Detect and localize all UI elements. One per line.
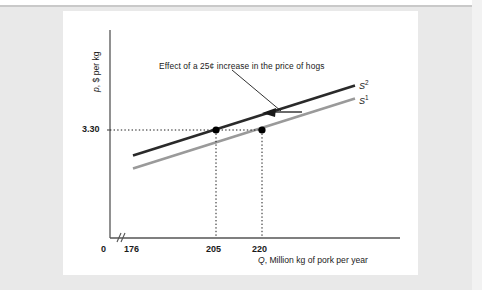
supply-curve-s1	[133, 99, 355, 169]
data-point-205	[212, 126, 219, 133]
x-axis-title: Q, Million kg of pork per year	[258, 256, 368, 265]
curve-label-s2-sup: 2	[365, 79, 369, 86]
y-axis-title-units: , $ per kg	[91, 51, 101, 87]
y-axis-title-variable: p	[91, 87, 101, 92]
y-axis-title: p, $ per kg	[92, 51, 101, 92]
data-point-220	[258, 126, 265, 133]
x-tick-label-220: 220	[252, 245, 267, 254]
annotation-leader-line	[232, 70, 281, 111]
x-tick-label-205: 205	[206, 245, 221, 254]
curve-label-s1: S1	[359, 95, 369, 106]
x-tick-label-176: 176	[124, 245, 139, 254]
origin-label: 0	[101, 245, 106, 254]
y-tick-label-330: 3.30	[82, 125, 100, 134]
shift-arrow-head	[262, 108, 276, 117]
x-axis-title-units: , Million kg of pork per year	[265, 255, 368, 265]
supply-curve-plot	[0, 0, 482, 290]
supply-curve-s2	[133, 86, 355, 156]
curve-label-s2: S2	[359, 80, 369, 91]
x-axis-title-variable: Q	[258, 255, 265, 265]
annotation-text: Effect of a 25¢ increase in the price of…	[159, 62, 324, 70]
curve-label-s1-sup: 1	[365, 94, 369, 101]
figure-root: p, $ per kg Q, Million kg of pork per ye…	[0, 0, 482, 290]
